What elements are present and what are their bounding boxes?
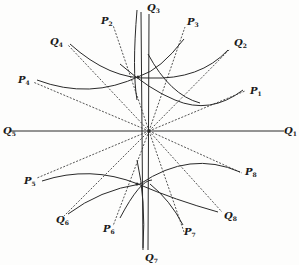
intersection-point-2	[136, 183, 139, 186]
center-point	[148, 130, 150, 132]
label-q6: Q6	[56, 215, 69, 228]
label-q1: Q1	[284, 126, 297, 139]
ray-to-p3	[149, 27, 185, 131]
label-p7: P7	[184, 227, 196, 240]
label-p4: P4	[18, 75, 30, 88]
lower-curve-a	[42, 174, 218, 212]
ray-to-p5	[37, 131, 149, 178]
ray-to-q4	[68, 45, 149, 131]
geometric-figure: Q3 P2 P3 Q4 Q2 P4 P1 Q5 Q1 P5 P8 Q6 Q8 P…	[0, 0, 299, 265]
lower-curve-b	[68, 163, 240, 214]
label-p2: P2	[101, 16, 113, 29]
label-p8: P8	[245, 167, 257, 180]
label-q3: Q3	[147, 3, 160, 16]
label-p3: P3	[187, 17, 199, 30]
lower-curve-c	[120, 180, 152, 218]
label-q4: Q4	[50, 37, 63, 50]
ray-to-p1	[149, 91, 245, 131]
line-drawing	[0, 0, 299, 265]
ray-to-q2	[149, 49, 230, 131]
intersection-point-1	[137, 76, 140, 79]
label-p5: P5	[24, 176, 36, 189]
label-q5: Q5	[3, 126, 16, 139]
ray-to-q6	[64, 131, 149, 216]
ray-to-q8	[149, 131, 222, 212]
label-p1: P1	[250, 86, 262, 99]
label-q8: Q8	[224, 211, 237, 224]
ray-to-p8	[149, 131, 242, 173]
label-q7: Q7	[145, 253, 158, 265]
lower-curve-d	[150, 184, 183, 225]
left-arc-top	[135, 10, 138, 100]
label-q2: Q2	[234, 38, 247, 51]
label-p6: P6	[103, 224, 115, 237]
